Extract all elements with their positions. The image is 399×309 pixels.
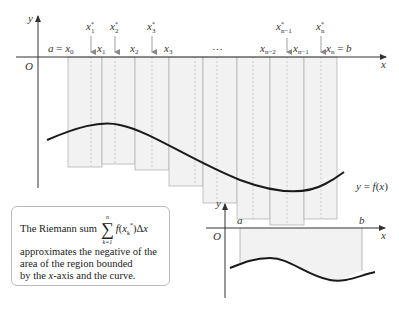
sample-arrows (91, 36, 321, 52)
svg-text:x*1: x*1 (85, 20, 95, 35)
note-line2: approximates the negative of the (20, 246, 161, 258)
svg-text:b: b (359, 214, 365, 226)
svg-text:x2: x2 (129, 42, 139, 56)
svg-text:x*n−1: x*n−1 (275, 20, 292, 35)
inset-shaded-region (240, 228, 362, 280)
svg-text:x1: x1 (96, 42, 106, 56)
svg-text:x: x (380, 229, 386, 241)
note-line4: by the x-axis and the curve. (20, 270, 161, 282)
svg-text:x*3: x*3 (146, 20, 156, 35)
svg-text:xn = b: xn = b (325, 42, 352, 56)
x-axis-label: x (380, 58, 386, 70)
svg-text:a: a (237, 214, 243, 226)
svg-text:xn−2: xn−2 (259, 42, 276, 56)
svg-text:y: y (215, 197, 221, 209)
note-prefix: The Riemann sum (20, 223, 97, 235)
riemann-note: The Riemann sum n ∑ k=1 f(xk*)Δx approxi… (11, 206, 170, 286)
origin-label: O (25, 60, 33, 72)
sum-term: f(xk*)Δx (116, 219, 148, 239)
svg-text:O: O (213, 230, 221, 242)
sigma-symbol: n ∑ k=1 (101, 213, 114, 246)
note-line3: area of the region bounded (20, 258, 161, 270)
sample-point-labels: x*1 x*2 x*3 x*n−1 x*n (85, 20, 325, 35)
svg-text:x*n: x*n (315, 20, 325, 35)
svg-text:xn−1: xn−1 (292, 42, 309, 56)
curve-label: y = f(x) (355, 180, 388, 193)
svg-text:x*2: x*2 (109, 20, 119, 35)
ellipsis-label: … (212, 40, 223, 52)
riemann-rectangles (68, 57, 337, 225)
partition-labels: a = x0 x1 x2 x3 … xn−2 xn−1 xn = b (48, 40, 352, 56)
y-axis-label: y (27, 12, 33, 24)
svg-text:x3: x3 (163, 42, 173, 56)
svg-text:a = x0: a = x0 (48, 42, 74, 56)
